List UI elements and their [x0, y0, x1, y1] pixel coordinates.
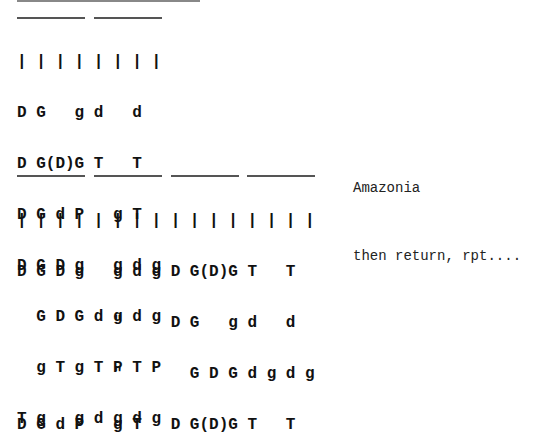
- beam: [171, 175, 239, 177]
- beam: [247, 175, 315, 177]
- beam: [17, 175, 85, 177]
- notation-row: D G g d d: [17, 105, 161, 122]
- notation-row: D G d P g T D G(D)G T T: [17, 417, 315, 434]
- beam: [94, 175, 162, 177]
- notation-row: " D G g d d: [17, 315, 315, 332]
- notation-row: D G D g g d g D G(D)G T T: [17, 264, 315, 281]
- beam: [94, 17, 162, 19]
- notation-row: D G(D)G T T: [17, 156, 161, 173]
- tick-row: | | | | | | | |: [17, 54, 161, 71]
- top-divider: [17, 0, 200, 2]
- tick-row: | | | | | | | | | | | | | | | |: [17, 213, 315, 230]
- section-2-notation: | | | | | | | | | | | | | | | | D G D g …: [17, 179, 315, 436]
- beam: [17, 17, 85, 19]
- footer-instruction: then return, rpt....: [353, 248, 521, 264]
- piece-title: Amazonia: [353, 180, 420, 196]
- notation-row: " G D G d g d g: [17, 366, 315, 383]
